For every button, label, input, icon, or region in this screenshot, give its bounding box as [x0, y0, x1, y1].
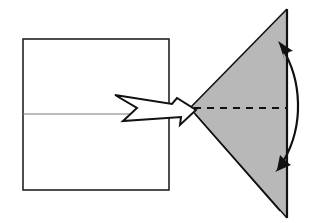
- origami-diagram: [0, 0, 313, 223]
- folded-triangle: [190, 9, 287, 218]
